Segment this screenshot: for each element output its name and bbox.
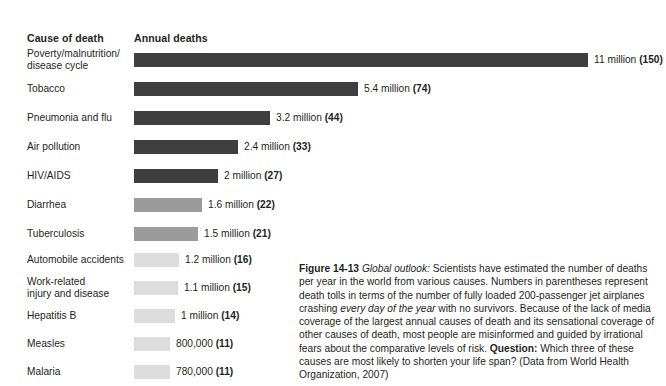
row-label-cause: Hepatitis B <box>27 310 131 322</box>
bar <box>134 253 179 267</box>
chart-row: Tobacco5.4 million (74) <box>0 81 666 99</box>
bar-value-label: 2 million (27) <box>224 169 282 183</box>
bar-value-number: 2.4 million <box>244 141 290 152</box>
bar-value-number: 3.2 million <box>276 112 322 123</box>
bar-value-label: 1.6 million (22) <box>208 198 275 212</box>
bar-value-label: 800,000 (11) <box>176 337 233 351</box>
row-label-cause: Tobacco <box>27 83 131 95</box>
bar <box>134 281 178 295</box>
bar-value-label: 5.4 million (74) <box>364 82 431 96</box>
bar-value-jets: (14) <box>221 310 239 321</box>
bar-value-label: 780,000 (11) <box>176 365 233 379</box>
caption-lead-italic: Global outlook: <box>362 263 430 274</box>
bar-value-label: 11 million (150) <box>594 53 663 67</box>
bar-value-number: 11 million <box>594 54 636 65</box>
chart-row: Poverty/malnutrition/ disease cycle11 mi… <box>0 52 666 70</box>
caption-question-label: Question: <box>490 343 538 354</box>
bar-value-jets: (74) <box>413 83 431 94</box>
bar-value-jets: (27) <box>264 170 282 181</box>
bar-value-jets: (15) <box>233 282 251 293</box>
bar-value-jets: (11) <box>216 338 234 349</box>
bar-value-number: 780,000 <box>176 366 213 377</box>
bar-value-label: 1.2 million (16) <box>185 253 252 267</box>
row-label-cause: Pneumonia and flu <box>27 112 131 124</box>
bar-value-jets: (150) <box>639 54 663 65</box>
chart-row: Air pollution2.4 million (33) <box>0 139 666 157</box>
bar-value-jets: (44) <box>325 112 343 123</box>
bar <box>134 53 588 67</box>
bar-value-label: 1.1 million (15) <box>184 281 251 295</box>
row-label-cause: Automobile accidents <box>27 254 131 266</box>
bar <box>134 82 358 96</box>
bar <box>134 227 198 241</box>
bar-value-jets: (11) <box>216 366 234 377</box>
bar-value-number: 1.2 million <box>185 254 231 265</box>
chart-row: Tuberculosis1.5 million (21) <box>0 226 666 244</box>
caption-italic-every-day: every day of the year <box>340 303 435 314</box>
bar-value-number: 1.6 million <box>208 199 254 210</box>
bar-value-label: 2.4 million (33) <box>244 140 311 154</box>
row-label-cause: Measles <box>27 338 131 350</box>
bar <box>134 198 202 212</box>
bar-value-jets: (21) <box>253 228 271 239</box>
row-label-cause: Air pollution <box>27 141 131 153</box>
row-label-cause: HIV/AIDS <box>27 170 131 182</box>
bar <box>134 111 270 125</box>
chart-row: Diarrhea1.6 million (22) <box>0 197 666 215</box>
bar-value-jets: (16) <box>234 254 252 265</box>
row-label-cause: Tuberculosis <box>27 228 131 240</box>
bar-value-label: 1 million (14) <box>181 309 239 323</box>
bar <box>134 169 218 183</box>
bar-value-number: 1.5 million <box>204 228 250 239</box>
bar <box>134 309 175 323</box>
bar <box>134 365 170 379</box>
bar <box>134 140 238 154</box>
bar-value-number: 2 million <box>224 170 261 181</box>
bar-value-label: 1.5 million (21) <box>204 227 271 241</box>
bar-value-jets: (33) <box>293 141 311 152</box>
chart-row: Pneumonia and flu3.2 million (44) <box>0 110 666 128</box>
bar-value-number: 1.1 million <box>184 282 230 293</box>
figure-caption: Figure 14-13 Global outlook: Scientists … <box>299 262 659 382</box>
row-label-cause: Diarrhea <box>27 199 131 211</box>
row-label-cause: Malaria <box>27 366 131 378</box>
bar-value-jets: (22) <box>257 199 275 210</box>
figure-number: Figure 14-13 <box>299 263 359 274</box>
bar-value-number: 800,000 <box>176 338 213 349</box>
row-label-cause: Poverty/malnutrition/ disease cycle <box>27 48 131 71</box>
chart-row: HIV/AIDS2 million (27) <box>0 168 666 186</box>
row-label-cause: Work-related injury and disease <box>27 276 131 299</box>
bar-value-number: 5.4 million <box>364 83 410 94</box>
bar <box>134 337 170 351</box>
bar-value-label: 3.2 million (44) <box>276 111 343 125</box>
bar-value-number: 1 million <box>181 310 218 321</box>
